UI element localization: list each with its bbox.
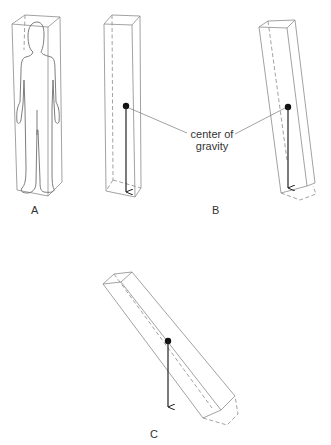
panel-label-a: A: [31, 204, 38, 216]
label-leader-right: [235, 108, 285, 134]
panel-c-tilted-prism: [103, 272, 238, 425]
panel-b-upright-cog: [123, 103, 129, 192]
center-of-gravity-label: center of gravity: [186, 128, 238, 152]
label-line-1: center of: [186, 128, 238, 140]
panel-label-b: B: [212, 204, 219, 216]
label-line-2: gravity: [186, 140, 238, 152]
center-of-gravity-diagram: [0, 0, 331, 445]
panel-b-upright-prism: [104, 15, 141, 197]
panel-c-cog: [165, 338, 171, 407]
panel-label-c: C: [150, 428, 158, 440]
label-leader-left: [129, 108, 187, 133]
panel-b-tilted-cog: [285, 104, 291, 188]
human-silhouette: [17, 22, 60, 193]
